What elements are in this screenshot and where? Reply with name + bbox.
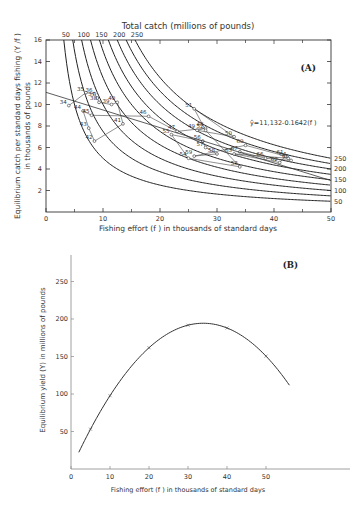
x-tick-label: 40 <box>223 473 231 481</box>
year-point <box>93 140 96 143</box>
y-tick-label: 6 <box>38 144 42 152</box>
y-tick-label: 100 <box>56 390 68 398</box>
year-label: 42 <box>85 134 92 140</box>
panel-b: (B) 01020304050 50100150200250 Fishing e… <box>39 255 350 494</box>
year-point <box>116 101 119 104</box>
isopleth-top-label: 200 <box>113 31 125 39</box>
year-point <box>204 129 207 132</box>
year-label: 65 <box>282 153 289 159</box>
year-point <box>187 157 190 160</box>
panel-a-y-axis: 246810121416 <box>34 36 331 195</box>
panel-a-y-label-2: in thousands of pounds <box>23 82 32 170</box>
year-label: 34 <box>60 99 67 105</box>
year-point <box>233 135 236 138</box>
year-label: 44 <box>74 104 81 110</box>
regression-label: ŷ=11,132-0.1642(f ) <box>250 119 317 127</box>
y-tick-label: 4 <box>38 165 42 173</box>
y-tick-label: 2 <box>38 187 42 195</box>
y-tick-label: 10 <box>34 101 42 109</box>
year-point <box>196 129 199 132</box>
x-tick-label: 20 <box>145 473 153 481</box>
x-tick-label: 30 <box>213 215 221 223</box>
year-point <box>290 159 293 162</box>
panel-a-x-label: Fishing effort (f ) in thousands of stan… <box>99 224 277 233</box>
year-point <box>278 161 281 164</box>
x-tick-label: 10 <box>99 215 107 223</box>
year-point <box>67 104 70 107</box>
year-label: 51 <box>185 102 192 108</box>
year-label: 52 <box>197 123 204 129</box>
panel-a-x-axis: 01020304050 <box>44 40 335 223</box>
year-label: 40 <box>108 95 115 101</box>
panel-b-x-axis: 01020304050 <box>69 466 270 481</box>
year-point <box>193 107 196 110</box>
year-point <box>122 122 125 125</box>
x-tick-label: 40 <box>270 215 278 223</box>
y-tick-label: 200 <box>56 315 68 323</box>
isopleth-right-label: 200 <box>334 165 346 173</box>
year-label: 49 <box>188 123 195 129</box>
year-label: 58 <box>208 147 215 153</box>
year-label: 57 <box>197 141 204 147</box>
year-label: 41 <box>114 117 121 123</box>
isopleth-right-label: 250 <box>334 155 346 163</box>
year-point <box>98 101 101 104</box>
year-label: 53 <box>231 160 238 166</box>
year-label: 35 <box>77 86 84 92</box>
x-tick-label: 50 <box>327 215 335 223</box>
y-tick-label: 50 <box>60 428 68 436</box>
isopleth-125 <box>91 40 330 185</box>
year-point <box>193 155 196 158</box>
isopleth-175 <box>108 40 330 174</box>
isopleth-top-label: 150 <box>95 31 107 39</box>
x-tick-label: 20 <box>156 215 164 223</box>
x-tick-label: 0 <box>44 215 48 223</box>
isopleth-150 <box>99 40 330 180</box>
year-label: 38 <box>90 95 97 101</box>
year-point <box>244 144 247 147</box>
x-tick-label: 50 <box>262 473 270 481</box>
x-tick-label: 30 <box>184 473 192 481</box>
isopleth-right-label: 50 <box>334 198 342 206</box>
panel-a-label: (A) <box>301 63 317 73</box>
figure: Total catch (millions of pounds) (A) 010… <box>0 0 357 508</box>
year-point <box>216 153 219 156</box>
y-tick-label: 16 <box>34 36 42 44</box>
y-tick-label: 14 <box>34 58 42 66</box>
year-point <box>87 127 90 130</box>
panel-a: Total catch (millions of pounds) (A) 010… <box>13 21 346 233</box>
yield-markers <box>89 324 268 431</box>
isopleth-250 <box>135 40 330 158</box>
yield-curve <box>79 323 290 452</box>
year-point <box>233 153 236 156</box>
year-point <box>147 115 150 118</box>
year-label: 62 <box>271 156 278 162</box>
yield-marker <box>109 394 112 397</box>
panel-b-label: (B) <box>283 260 298 270</box>
yield-marker <box>148 346 151 349</box>
x-tick-label: 0 <box>69 473 73 481</box>
isopleth-right-label: 100 <box>334 187 346 195</box>
isopleth-right-label: 150 <box>334 176 346 184</box>
year-point <box>238 165 241 168</box>
x-tick-label: 10 <box>106 473 114 481</box>
panel-a-title: Total catch (millions of pounds) <box>121 21 255 31</box>
y-tick-label: 150 <box>56 353 68 361</box>
isopleth-right-labels: 25020015010050 <box>334 155 346 206</box>
year-label: 45 <box>83 108 90 114</box>
isopleth-top-label: 250 <box>131 31 143 39</box>
year-label: 59 <box>185 149 192 155</box>
yield-marker <box>265 355 268 358</box>
year-label: 60 <box>237 138 244 144</box>
panel-b-y-label: Equilibrium yield (Y) in millions of pou… <box>39 287 47 433</box>
year-label: 43 <box>80 121 87 127</box>
year-point <box>264 157 267 160</box>
panel-a-y-label-1: Equilibrium catch per standard days fish… <box>13 33 22 219</box>
isopleth-top-labels: 50100150200250 <box>62 31 144 39</box>
panel-b-x-label: Fishing effort (f ) in thousands of stan… <box>111 486 266 494</box>
isopleth-top-label: 100 <box>77 31 89 39</box>
year-label: 50 <box>225 130 232 136</box>
y-tick-label: 250 <box>56 278 68 286</box>
y-tick-label: 12 <box>34 79 42 87</box>
year-point <box>110 103 113 106</box>
